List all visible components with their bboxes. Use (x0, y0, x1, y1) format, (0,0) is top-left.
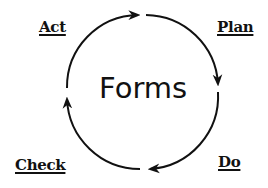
stage-label-act: Act (39, 20, 66, 35)
stage-label-check: Check (15, 158, 65, 173)
stage-label-plan: Plan (217, 20, 253, 35)
stage-label-do: Do (218, 155, 240, 170)
arrow-check-to-act (67, 99, 140, 169)
pdca-cycle-diagram: Forms Act Plan Check Do (0, 0, 268, 188)
center-title: Forms (99, 74, 187, 103)
